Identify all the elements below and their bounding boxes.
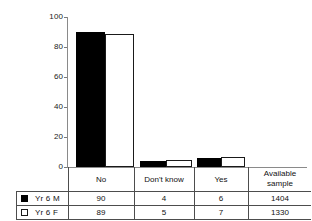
filled-square-icon bbox=[21, 195, 28, 202]
cell-yr6f-no: 89 bbox=[68, 206, 134, 220]
bar-yr6f-yes bbox=[221, 157, 245, 168]
bars-layer bbox=[0, 17, 311, 167]
cell-yr6m-no: 90 bbox=[68, 192, 134, 206]
cell-yr6m-dontknow: 4 bbox=[134, 192, 194, 206]
legend-label-yr6m: Yr 6 M bbox=[35, 194, 60, 203]
header-dont-know: Don't know bbox=[134, 167, 194, 192]
data-table: No Don't know Yes Available sample Yr 6 … bbox=[16, 167, 307, 219]
bar-yr6f-dontknow bbox=[166, 160, 192, 168]
header-yes: Yes bbox=[194, 167, 248, 192]
cell-yr6f-dontknow: 5 bbox=[134, 206, 194, 220]
bar-yr6m-no bbox=[76, 32, 105, 167]
header-available-line2: sample bbox=[249, 179, 312, 189]
table-header-row: No Don't know Yes Available sample bbox=[17, 167, 312, 192]
header-available-sample: Available sample bbox=[248, 167, 311, 192]
chart-figure: 100 80 60 40 20 0 No bbox=[0, 0, 311, 221]
bar-yr6m-yes bbox=[197, 158, 221, 167]
legend-label-yr6f: Yr 6 F bbox=[35, 208, 58, 217]
header-no: No bbox=[68, 167, 134, 192]
legend-cell-yr6f: Yr 6 F bbox=[17, 206, 69, 220]
cell-yr6f-yes: 7 bbox=[194, 206, 248, 220]
cell-yr6f-available: 1330 bbox=[248, 206, 311, 220]
table-row: Yr 6 F 89 5 7 1330 bbox=[17, 206, 312, 220]
table-row: Yr 6 M 90 4 6 1404 bbox=[17, 192, 312, 206]
plot-area: 100 80 60 40 20 0 bbox=[0, 0, 311, 168]
bar-yr6f-no bbox=[105, 34, 134, 168]
cell-yr6m-yes: 6 bbox=[194, 192, 248, 206]
header-available-line1: Available bbox=[249, 169, 312, 179]
header-legend-blank bbox=[17, 167, 69, 192]
legend-cell-yr6m: Yr 6 M bbox=[17, 192, 69, 206]
cell-yr6m-available: 1404 bbox=[248, 192, 311, 206]
open-square-icon bbox=[21, 209, 28, 216]
